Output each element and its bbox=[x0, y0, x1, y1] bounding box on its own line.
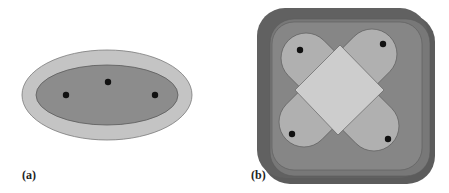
figure-canvas: (a) (b) bbox=[0, 0, 449, 193]
point-b1 bbox=[297, 47, 303, 53]
panel-b bbox=[257, 8, 435, 184]
point-b3 bbox=[289, 131, 295, 137]
point-b2 bbox=[380, 41, 386, 47]
panel-label-b: (b) bbox=[251, 168, 266, 183]
panel-a bbox=[22, 50, 192, 140]
point-a2 bbox=[105, 79, 111, 85]
figure-svg bbox=[0, 0, 449, 193]
panel-label-a: (a) bbox=[22, 168, 36, 183]
point-b4 bbox=[385, 136, 391, 142]
point-a3 bbox=[152, 92, 158, 98]
point-a1 bbox=[63, 92, 69, 98]
